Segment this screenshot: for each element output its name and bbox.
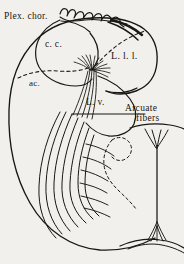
label-anterior-commissure: ac. xyxy=(29,79,40,88)
dashed-boundary-anterior xyxy=(18,68,88,78)
label-lateral-ventricle: L. v. xyxy=(86,98,105,108)
lateral-ventricle-floor xyxy=(86,123,109,136)
label-arcuate-line1: Arcuate xyxy=(125,103,157,113)
stalk-top-horizontal xyxy=(130,124,184,129)
callosal-crest xyxy=(112,20,142,35)
label-arcuate-line2: fibers xyxy=(125,114,159,124)
label-corpus-callosum: c. c. xyxy=(45,40,62,50)
label-lll: L. l. l. xyxy=(111,51,138,62)
dashed-inner-loop-hook xyxy=(111,138,131,161)
anatomical-figure xyxy=(0,0,184,264)
stalk-top-funnel xyxy=(145,129,168,148)
stalk-bottom-fan xyxy=(148,222,166,241)
fiber-bundle-descending xyxy=(73,70,96,119)
label-arcuate-fibers: Arcuate fibers xyxy=(125,104,159,124)
arcuate-fiber-sweeps xyxy=(39,112,99,238)
corpus-callosum-outline xyxy=(36,20,92,86)
label-plex-chor: Plex. chor. xyxy=(4,12,48,22)
